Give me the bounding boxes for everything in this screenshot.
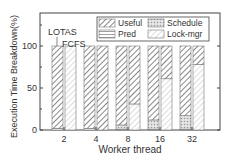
legend-swatch-useful xyxy=(99,19,115,27)
bar-segment-useful xyxy=(180,46,191,116)
x-tick-label: 8 xyxy=(125,134,130,144)
bar-segment-lock-mgr xyxy=(65,46,76,130)
bar-segment-useful xyxy=(84,46,95,128)
bar-segment-lock-mgr xyxy=(193,64,204,130)
legend-swatch-pred xyxy=(99,30,115,38)
bar-segment-useful xyxy=(193,46,204,64)
x-tick-label: 2 xyxy=(61,134,66,144)
bar-segment-useful xyxy=(116,46,127,125)
bar-segment-useful xyxy=(148,46,159,120)
y-tick-label: 0 xyxy=(32,125,37,135)
bar-segment-lock-mgr xyxy=(129,104,140,130)
bar-segment-useful xyxy=(52,46,63,128)
bar-segment-lock-mgr xyxy=(161,79,172,130)
bar-segment-schedule xyxy=(180,116,191,129)
y-tick-label: 50 xyxy=(27,83,37,93)
bar-segment-useful xyxy=(97,46,108,130)
legend-label-useful: Useful xyxy=(118,18,142,28)
legend-label-pred: Pred xyxy=(118,29,136,39)
legend-label-lock-mgr: Lock-mgr xyxy=(167,29,203,39)
annotation-fcfs: FCFS xyxy=(62,39,86,49)
y-axis-label: Execution Time Breakdown(%) xyxy=(9,15,19,138)
annotation-lotas: LOTAS xyxy=(48,27,77,37)
legend-swatch-lock-mgr xyxy=(148,30,164,38)
chart-root: 050100Execution Time Breakdown(%)2481632… xyxy=(0,0,229,167)
stacked-bar-chart: 050100Execution Time Breakdown(%)2481632… xyxy=(0,0,229,167)
bar-segment-useful xyxy=(161,46,172,79)
bar-segment-schedule xyxy=(116,125,127,129)
legend-swatch-schedule xyxy=(148,19,164,27)
legend-label-schedule: Schedule xyxy=(167,18,203,28)
x-axis-label: Worker thread xyxy=(98,144,161,155)
plot-area: 050100Execution Time Breakdown(%)2481632… xyxy=(9,13,220,155)
x-tick-label: 4 xyxy=(93,134,98,144)
x-tick-label: 16 xyxy=(155,134,165,144)
bar-segment-schedule xyxy=(148,120,159,129)
bar-segment-useful xyxy=(129,46,140,104)
x-tick-label: 32 xyxy=(187,134,197,144)
y-tick-label: 100 xyxy=(22,41,37,51)
